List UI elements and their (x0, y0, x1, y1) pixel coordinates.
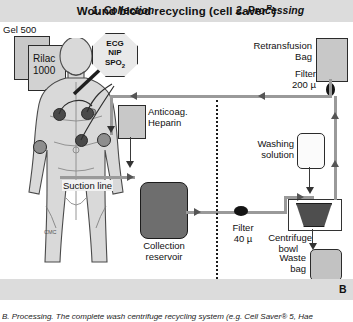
phase-divider (216, 100, 218, 279)
reservoir-label-line2: reservoir (135, 251, 193, 262)
return-flow-arrow-down (107, 126, 115, 133)
figure-caption: B. Processing. The complete wash centrif… (2, 312, 353, 322)
collection-reservoir (140, 182, 188, 239)
washing-label-line2: solution (236, 149, 294, 160)
waste-label-line2: bag (256, 263, 306, 274)
anticoagulant-bag (118, 105, 146, 139)
washing-label-line1: Washing (236, 138, 294, 149)
return-flow-arrow-right (258, 92, 265, 100)
anticoagulant-label-line2: Heparin (148, 117, 181, 128)
retransfusion-label-line2: Bag (236, 51, 312, 62)
gel500-label: Gel 500 (3, 24, 36, 35)
centrifuge-label-line1: Centrifuge (244, 232, 312, 243)
bowl-outlet-arrow-lower (331, 160, 339, 167)
filter-to-bowl-tube (248, 211, 286, 214)
filter-200-label-line1: Filter (258, 68, 316, 79)
waste-label-line1: Waste (256, 252, 306, 263)
phase-bar (0, 279, 353, 300)
anticoagulant-drip-line (130, 137, 131, 163)
suction-tube (60, 176, 135, 179)
filter-200-label-line2: 200 µ (258, 79, 316, 90)
panel-letter: B (339, 283, 347, 295)
anticoagulant-label-line1: Anticoag. (148, 106, 188, 117)
reservoir-label-line1: Collection (135, 240, 193, 251)
anticoagulant-flow-arrow (126, 161, 134, 168)
reservoir-outlet-arrow (194, 208, 201, 216)
monitor-label-spo2: SPO2 (105, 58, 125, 71)
return-flow-arrow-left (130, 92, 137, 100)
bowl-outlet-arrow-upper (331, 112, 339, 119)
retransfusion-bag (316, 38, 348, 82)
washing-solution-tube (309, 167, 310, 189)
svg-text:CMC: CMC (44, 229, 57, 235)
waste-bag (310, 249, 342, 281)
phase-label-collection: 1. Collection (48, 4, 198, 16)
filter-40-micron (234, 206, 248, 216)
washing-solution-bag (297, 133, 325, 169)
monitor-label-nip: NIP (108, 48, 121, 58)
retransfusion-label-line1: Retransfusion (236, 40, 312, 51)
suction-line-label: Suction line (62, 180, 113, 191)
monitor-label-ecg: ECG (106, 39, 123, 49)
retransfusion-return-tube (110, 95, 332, 98)
suction-flow-arrow (127, 173, 134, 181)
figure-panel: Wound blood recycling (cell saverR) Gel … (0, 0, 353, 322)
phase-label-processing: 2. Processing (205, 4, 335, 16)
washing-flow-arrow (306, 187, 314, 194)
